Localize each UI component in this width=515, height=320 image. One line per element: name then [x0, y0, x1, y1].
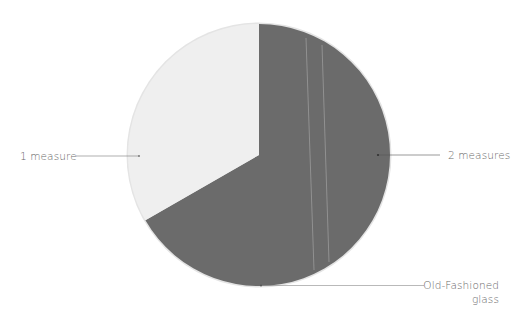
pie-chart — [0, 0, 515, 320]
leader-dot-one-measure — [138, 155, 140, 157]
label-glass-line1: Old-Fashioned — [423, 278, 499, 292]
label-two-measures: 2 measures — [448, 148, 510, 162]
pie-slices — [128, 24, 390, 286]
label-one-measure: 1 measure — [20, 149, 77, 163]
leader-dot-two-measures — [377, 154, 379, 156]
leader-dot-glass — [260, 285, 262, 287]
label-glass-line2: glass — [472, 292, 499, 306]
